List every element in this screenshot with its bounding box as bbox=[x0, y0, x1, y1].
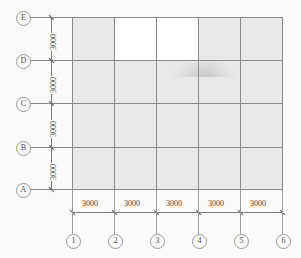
horizontal-dimension-4-5: 3000 bbox=[207, 199, 225, 208]
bay-cell-DE-3-4 bbox=[156, 17, 198, 60]
grid-label-2[interactable]: 2 bbox=[108, 234, 123, 249]
bay-row-BC bbox=[72, 103, 283, 147]
horizontal-dimension-5-6: 3000 bbox=[249, 199, 267, 208]
grid-line-3 bbox=[156, 17, 157, 190]
grid-label-D[interactable]: D bbox=[16, 54, 31, 69]
bay-row-CD bbox=[72, 60, 283, 103]
extension-line-2 bbox=[114, 190, 115, 234]
grid-label-A[interactable]: A bbox=[16, 183, 31, 198]
extension-line-6 bbox=[282, 190, 283, 234]
grid-label-5[interactable]: 5 bbox=[234, 234, 249, 249]
extension-line-1 bbox=[72, 190, 73, 234]
grid-label-C[interactable]: C bbox=[16, 97, 31, 112]
structural-grid-drawing: E D C B A 3000 3000 3000 3000 3000 3000 … bbox=[0, 0, 301, 258]
grid-line-D bbox=[72, 60, 283, 61]
grid-line-B bbox=[72, 147, 283, 148]
bay-cell-DE-5-6 bbox=[240, 17, 283, 60]
grid-label-6[interactable]: 6 bbox=[276, 234, 291, 249]
grid-label-4[interactable]: 4 bbox=[192, 234, 207, 249]
grid-label-B[interactable]: B bbox=[16, 141, 31, 156]
extension-line-3 bbox=[156, 190, 157, 234]
horizontal-dimension-1-2: 3000 bbox=[81, 199, 99, 208]
bay-cell-DE-1-2 bbox=[72, 17, 114, 60]
bay-cell-DE-4-5 bbox=[198, 17, 240, 60]
grid-label-3[interactable]: 3 bbox=[150, 234, 165, 249]
grid-line-2 bbox=[114, 17, 115, 190]
bay-cell-DE-2-3 bbox=[114, 17, 156, 60]
extension-line-4 bbox=[198, 190, 199, 234]
vertical-dimension-B-A: 3000 bbox=[49, 163, 58, 181]
vertical-dimension-D-C: 3000 bbox=[49, 76, 58, 94]
grid-line-5 bbox=[240, 17, 241, 190]
vertical-dimension-E-D: 3000 bbox=[49, 33, 58, 51]
grid-line-1 bbox=[72, 17, 73, 190]
horizontal-dimension-2-3: 3000 bbox=[123, 199, 141, 208]
grid-line-6 bbox=[282, 17, 283, 190]
grid-label-1[interactable]: 1 bbox=[66, 234, 81, 249]
vertical-dimension-C-B: 3000 bbox=[49, 120, 58, 138]
grid-line-C bbox=[72, 103, 283, 104]
grid-line-E bbox=[72, 17, 283, 18]
grid-label-E[interactable]: E bbox=[16, 11, 31, 26]
grid-line-A bbox=[72, 189, 283, 190]
extension-line-5 bbox=[240, 190, 241, 234]
grid-line-4 bbox=[198, 17, 199, 190]
horizontal-dimension-3-4: 3000 bbox=[165, 199, 183, 208]
horizontal-dimension-line bbox=[72, 212, 283, 213]
grid-block bbox=[72, 17, 283, 190]
bay-row-AB bbox=[72, 147, 283, 190]
